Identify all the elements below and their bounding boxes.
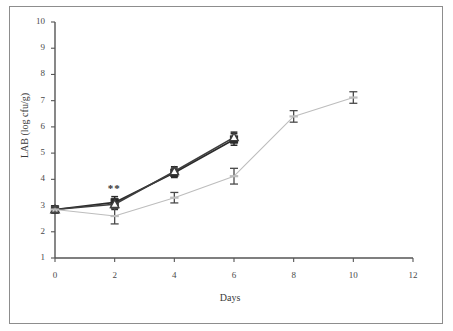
line-chart-plot bbox=[0, 0, 453, 331]
series-line-dark-series-b bbox=[55, 137, 234, 209]
x-axis-tick-label: 12 bbox=[398, 270, 428, 280]
y-axis-tick-label: 4 bbox=[19, 173, 45, 183]
y-axis-tick-label: 8 bbox=[19, 68, 45, 78]
y-axis-tick-label: 9 bbox=[19, 42, 45, 52]
figure-container: LAB (log cfu/g) Days 1234567891002468101… bbox=[0, 0, 453, 331]
y-axis-tick-label: 2 bbox=[19, 226, 45, 236]
x-axis-tick-label: 0 bbox=[40, 270, 70, 280]
significance-annotation: ** bbox=[108, 182, 121, 194]
y-axis-tick-label: 10 bbox=[19, 16, 45, 26]
x-axis-tick-label: 4 bbox=[159, 270, 189, 280]
series-line-dark-series-a bbox=[55, 139, 234, 209]
y-axis-tick-label: 7 bbox=[19, 95, 45, 105]
x-axis-tick-label: 10 bbox=[338, 270, 368, 280]
y-axis-tick-label: 6 bbox=[19, 121, 45, 131]
x-axis-title: Days bbox=[150, 292, 310, 303]
x-axis-tick-label: 6 bbox=[219, 270, 249, 280]
y-axis-tick-label: 5 bbox=[19, 147, 45, 157]
y-axis-tick-label: 1 bbox=[19, 252, 45, 262]
y-axis-tick-label: 3 bbox=[19, 200, 45, 210]
x-axis-tick-label: 8 bbox=[279, 270, 309, 280]
x-axis-tick-label: 2 bbox=[100, 270, 130, 280]
